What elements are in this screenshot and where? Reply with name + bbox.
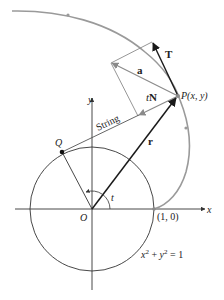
label-origin: O <box>80 212 87 223</box>
point-1-0 <box>152 207 156 211</box>
curve-marker <box>66 13 69 16</box>
label-r-vector: r <box>148 135 153 147</box>
label-x-axis: x <box>206 204 212 215</box>
curve-marker <box>184 126 187 129</box>
involute-diagram: T a P(x, y) tN String Q r y x O t (1, 0)… <box>0 0 224 300</box>
label-angle-t: t <box>111 192 114 203</box>
point-p <box>176 94 180 98</box>
label-circle-equation: x2 + y2 = 1 <box>140 248 183 260</box>
acceleration-vector <box>112 63 178 96</box>
label-tn-vector: tN <box>146 91 157 103</box>
parallelogram-edge <box>111 63 138 116</box>
tn-vector <box>139 96 178 115</box>
involute-curve <box>12 11 189 209</box>
radius-oq <box>62 152 92 209</box>
label-point-p: P(x, y) <box>180 90 208 102</box>
label-y-axis: y <box>87 94 93 105</box>
point-q <box>60 150 65 155</box>
position-vector <box>92 98 176 209</box>
label-tn-n: N <box>149 91 157 103</box>
label-a-vector: a <box>137 64 143 76</box>
label-t-vector: T <box>165 48 173 60</box>
label-point-q: Q <box>55 137 63 148</box>
label-point-1-0: (1, 0) <box>157 211 179 223</box>
